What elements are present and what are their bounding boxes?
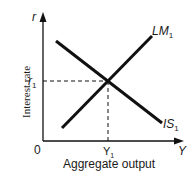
is-lm-diagram: r Interest rate r1 LM1 IS1 0 Y1 Y Aggreg… (0, 0, 195, 179)
origin-label: 0 (34, 143, 41, 157)
is-label: IS1 (163, 117, 179, 133)
x-axis-symbol: Y (178, 144, 187, 158)
lm-curve (62, 36, 152, 128)
r1-label: r1 (28, 74, 37, 90)
y-axis-arrow-icon (40, 12, 47, 22)
lm-label: LM1 (152, 24, 174, 40)
x-axis-label: Aggregate output (63, 157, 156, 171)
y-axis-symbol: r (32, 10, 37, 24)
